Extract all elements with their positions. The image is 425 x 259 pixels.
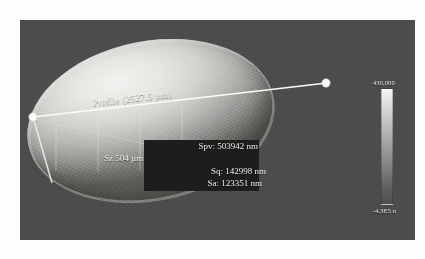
stat-sq: Sq: 142998 nm bbox=[100, 165, 270, 177]
color-scale-gradient[interactable] bbox=[381, 88, 393, 205]
stat-sz: Sz 504 µm bbox=[100, 152, 270, 164]
color-scale-max-label: 430,000 bbox=[373, 79, 413, 86]
stat-spv: Spv: 503942 nm bbox=[100, 140, 270, 152]
profile-start-handle bbox=[29, 113, 37, 121]
render-canvas[interactable]: Profile (2527.5 µm) Spv: 503942 nm Sz 50… bbox=[20, 20, 415, 240]
surface-measurement-noise bbox=[20, 20, 289, 223]
color-scale-min-label: -4.3E5 n bbox=[373, 207, 413, 214]
surface-3d-model[interactable] bbox=[20, 20, 415, 240]
stat-sa: Sa: 123351 nm bbox=[100, 177, 270, 189]
color-scale[interactable]: 430,000 -4.3E5 n bbox=[375, 60, 415, 220]
statistics-readout: Spv: 503942 nm Sz 504 µm Sq: 142998 nm S… bbox=[100, 140, 270, 190]
surface-profile-viewer: Profile (2527.5 µm) Spv: 503942 nm Sz 50… bbox=[0, 0, 425, 259]
profile-end-handle bbox=[322, 79, 330, 87]
